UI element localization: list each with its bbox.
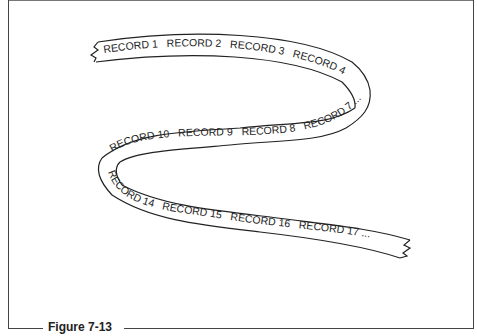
ribbon-diagram: RECORD 1 RECORD 2 RECORD 3 RECORD 4 RECO… bbox=[0, 0, 477, 336]
